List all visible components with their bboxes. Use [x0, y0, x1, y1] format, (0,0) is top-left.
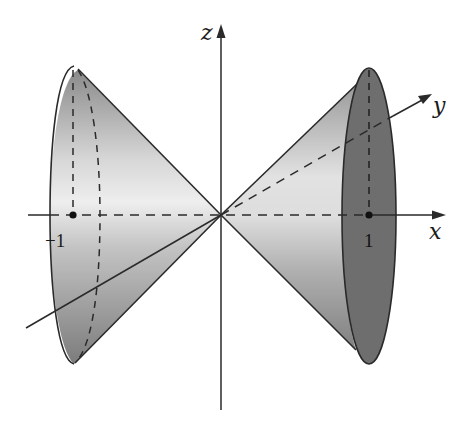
z-axis-label: z [200, 20, 213, 45]
point-x-neg-1 [69, 211, 76, 218]
tick-label-neg-1: −1 [45, 230, 65, 251]
y-axis-positive-tip [393, 99, 424, 116]
double-cone-svg: z x y −1 1 [0, 0, 465, 422]
double-cone-figure: z x y −1 1 [0, 0, 465, 422]
x-axis-label: x [429, 219, 442, 244]
right-cone-surface [221, 84, 357, 350]
tick-label-pos-1: 1 [364, 230, 374, 251]
point-x-pos-1 [365, 211, 372, 218]
z-axis-arrowhead [217, 24, 226, 38]
y-axis-arrowhead [418, 94, 432, 104]
y-axis-label: y [432, 93, 446, 118]
